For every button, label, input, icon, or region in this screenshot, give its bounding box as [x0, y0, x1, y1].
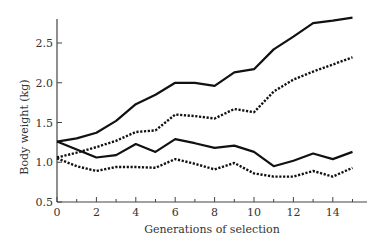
x-axis-title: Generations of selection [144, 223, 280, 236]
y-axis-ticks: 0.51.01.52.02.5 [36, 37, 63, 209]
body-weight-line-chart: 02468101214 0.51.01.52.02.5 Generations … [0, 0, 387, 245]
y-tick-label: 0.5 [36, 196, 54, 209]
x-tick-label: 8 [211, 206, 218, 219]
y-tick-label: 2.5 [36, 37, 54, 50]
y-tick-label: 1.0 [36, 156, 54, 169]
x-tick-label: 12 [286, 206, 300, 219]
y-tick-label: 2.0 [36, 77, 54, 90]
data-series [57, 18, 353, 177]
x-tick-label: 2 [93, 206, 100, 219]
y-axis-title: Body weight (kg) [18, 79, 31, 174]
axes [57, 19, 367, 202]
x-axis-ticks: 02468101214 [54, 197, 353, 219]
x-tick-label: 10 [247, 206, 261, 219]
x-tick-label: 4 [132, 206, 139, 219]
series-lower-solid [57, 139, 353, 166]
x-tick-label: 0 [54, 206, 61, 219]
series-lower-dotted [57, 158, 353, 176]
series-upper-dotted [57, 57, 353, 157]
y-tick-label: 1.5 [36, 117, 54, 130]
series-upper-solid [57, 18, 353, 142]
x-tick-label: 6 [172, 206, 179, 219]
x-tick-label: 14 [326, 206, 340, 219]
